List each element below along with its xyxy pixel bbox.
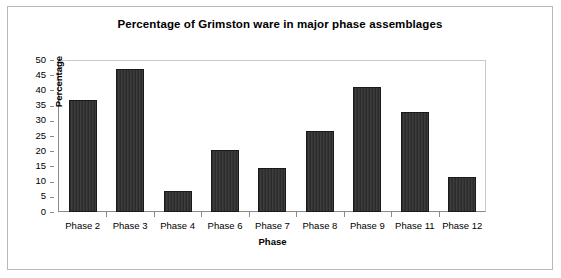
bar[interactable] [211, 150, 239, 212]
chart-figure: Percentage of Grimston ware in major pha… [0, 0, 561, 278]
bar[interactable] [164, 191, 192, 212]
x-axis-tick-label: Phase 7 [249, 219, 296, 232]
x-axis-tick-label: Phase 9 [344, 219, 391, 232]
bar-slot [154, 60, 201, 212]
y-axis-tick-label: 45 [35, 69, 46, 81]
x-axis-tick-label: Phase 11 [391, 219, 438, 232]
y-axis-tick-mark [50, 182, 54, 183]
x-axis-tick-mark [344, 212, 345, 217]
x-axis-tick-mark [106, 212, 107, 217]
x-axis-ticks [59, 212, 486, 217]
y-axis-tick-label: 50 [35, 54, 46, 66]
bar-slot [391, 60, 438, 212]
y-axis-tick-mark [50, 136, 54, 137]
y-axis-tick-label: 35 [35, 99, 46, 111]
x-axis-tick-label: Phase 3 [106, 219, 153, 232]
y-axis-tick-label: 5 [41, 190, 46, 202]
chart-title: Percentage of Grimston ware in major pha… [7, 18, 553, 30]
x-axis-title: Phase [59, 236, 486, 247]
y-axis-tick-mark [50, 60, 54, 61]
x-axis-tick-mark [296, 212, 297, 217]
x-axis-tick-label: Phase 12 [439, 219, 486, 232]
y-axis-tick-mark [50, 166, 54, 167]
bar[interactable] [69, 100, 97, 212]
x-axis-tick-mark [154, 212, 155, 217]
y-axis-tick-mark [50, 121, 54, 122]
bar-slot [439, 60, 486, 212]
x-axis-tick-labels: Phase 2Phase 3Phase 4Phase 6Phase 7Phase… [59, 219, 486, 233]
y-axis-tick-mark [50, 106, 54, 107]
y-axis-tick-mark [50, 197, 54, 198]
bar[interactable] [258, 168, 286, 212]
y-axis-tick-label: 10 [35, 175, 46, 187]
y-axis-tick-mark [50, 151, 54, 152]
y-axis-tick-mark [50, 75, 54, 76]
y-axis-tick-label: 15 [35, 160, 46, 172]
bar-slot [59, 60, 106, 212]
bar[interactable] [116, 69, 144, 212]
x-axis-tick-mark [201, 212, 202, 217]
bar-slot [296, 60, 343, 212]
y-axis-tick-mark [50, 90, 54, 91]
x-axis-tick-mark [439, 212, 440, 217]
bar[interactable] [306, 131, 334, 212]
bar-slot [106, 60, 153, 212]
bar-slot [249, 60, 296, 212]
bar-series [59, 60, 486, 212]
y-axis-tick-label: 40 [35, 84, 46, 96]
y-axis-tick-label: 0 [41, 206, 46, 218]
bar-slot [201, 60, 248, 212]
x-axis-tick-label: Phase 6 [201, 219, 248, 232]
y-axis-tick-label: 25 [35, 130, 46, 142]
x-axis-tick-label: Phase 4 [154, 219, 201, 232]
y-axis-tick-label: 30 [35, 114, 46, 126]
bar[interactable] [401, 112, 429, 212]
x-axis-tick-label: Phase 2 [59, 219, 106, 232]
y-axis-tick-label: 20 [35, 145, 46, 157]
y-axis-tick-mark [50, 212, 54, 213]
x-axis-tick-mark [249, 212, 250, 217]
x-axis-tick-label: Phase 8 [296, 219, 343, 232]
x-axis-tick-mark [391, 212, 392, 217]
bar-slot [344, 60, 391, 212]
bar[interactable] [353, 87, 381, 212]
bar[interactable] [448, 177, 476, 212]
